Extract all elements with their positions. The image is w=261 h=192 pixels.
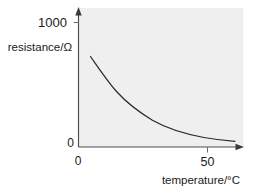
y-tick-label-zero: 0: [67, 136, 74, 150]
y-tick-label-1000: 1000: [38, 15, 67, 30]
x-tick-label-zero: 0: [75, 154, 82, 168]
x-tick-label-50: 50: [201, 155, 215, 169]
resistance-temperature-chart: 1000 0 0 50 resistance/Ω temperature/°C: [0, 0, 261, 192]
plot-area-background: [79, 8, 244, 147]
x-axis-label: temperature/°C: [162, 174, 240, 186]
chart-svg: 1000 0 0 50 resistance/Ω temperature/°C: [0, 0, 261, 192]
y-axis-label: resistance/Ω: [8, 41, 73, 53]
